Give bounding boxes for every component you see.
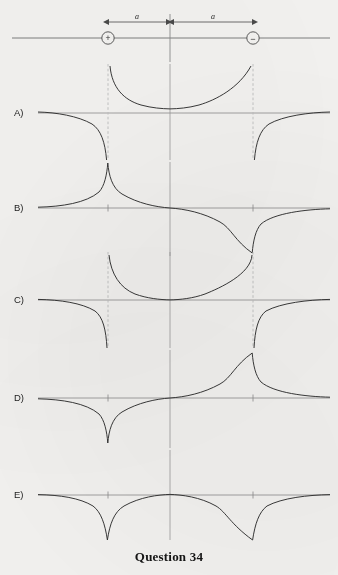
negative-charge-symbol: − (250, 34, 255, 44)
option-c-left-outer-curve (38, 299, 107, 348)
option-label-c: C) (14, 294, 24, 305)
option-panel-d[interactable]: D) (14, 350, 330, 448)
option-panel-e[interactable]: E) (14, 450, 330, 540)
figure-page: a a + − A) (0, 0, 338, 575)
left-distance-label: a (135, 12, 139, 21)
option-a-right-outer-curve (254, 112, 330, 160)
option-panels: A) B) C) (14, 64, 330, 540)
option-panel-b[interactable]: B) (14, 162, 330, 256)
option-e-curve (38, 494, 330, 540)
option-label-a: A) (14, 107, 24, 118)
option-c-right-outer-curve (254, 299, 330, 348)
option-a-inner-curve (110, 66, 251, 109)
option-panel-c[interactable]: C) (14, 252, 330, 348)
right-distance-label: a (211, 12, 215, 21)
option-label-d: D) (14, 392, 24, 403)
physics-figure: a a + − A) (0, 0, 338, 575)
option-a-left-outer-curve (38, 112, 107, 160)
positive-charge-icon: + (102, 32, 114, 44)
negative-charge-icon: − (247, 32, 259, 44)
figure-caption: Question 34 (0, 549, 338, 565)
dipole-setup: a a + − (12, 12, 330, 62)
option-c-inner-curve (109, 255, 252, 300)
option-panel-a[interactable]: A) (14, 64, 330, 160)
option-label-e: E) (14, 489, 24, 500)
positive-charge-symbol: + (106, 33, 111, 43)
option-label-b: B) (14, 202, 24, 213)
